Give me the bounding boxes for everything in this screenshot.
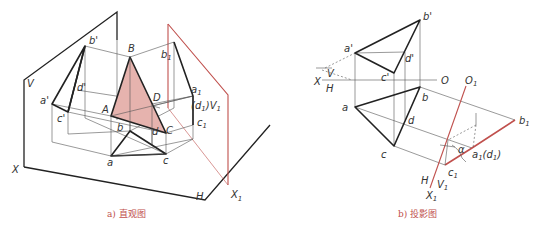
label-d1-prime-v1: (d1)V1 — [191, 100, 221, 113]
label-a-prime-b: a' — [344, 43, 353, 54]
caption-b: b) 投影图 — [398, 208, 437, 219]
label-c-b: c — [381, 149, 387, 160]
label-v1-b: V1 — [437, 179, 448, 192]
label-point-b: b — [117, 122, 123, 133]
label-point-d: d — [152, 126, 159, 137]
label-point-B: B — [128, 43, 135, 54]
v-plane-outline — [24, 12, 117, 167]
label-o1: O1 — [465, 75, 477, 88]
label-a-prime: a' — [40, 95, 49, 106]
label-b-prime-b: b' — [423, 11, 432, 22]
label-point-a: a — [107, 157, 113, 168]
label-v-b: V — [327, 68, 335, 79]
label-c1-prime: c1 — [197, 117, 207, 130]
label-c-prime: c' — [57, 113, 65, 124]
label-b-prime: b' — [89, 35, 98, 46]
label-x-axis: X — [11, 164, 20, 175]
label-b-b: b — [422, 92, 428, 103]
caption-a: a) 直观图 — [107, 208, 146, 219]
label-c1-prime-b: c1 — [448, 167, 458, 180]
label-v-plane: V — [27, 78, 35, 89]
label-b1-prime: b1 — [161, 49, 172, 62]
label-h-plane: H — [196, 191, 204, 202]
label-x1-b: X1 — [425, 190, 437, 203]
label-o: O — [441, 75, 449, 86]
label-d-prime-b: d' — [405, 53, 414, 64]
label-h-below: H — [421, 175, 429, 186]
label-alpha: α — [458, 144, 465, 155]
label-a-b: a — [342, 102, 348, 113]
figure-a-perspective: V X H X1 B A C D a b c d b' a' c' d' b1 … — [11, 12, 270, 219]
label-x-axis-b: X — [313, 76, 322, 87]
figure-b-projection: X V H O O1 b' a' c' d' a b c d b1 a1(d1)… — [313, 11, 530, 219]
diagram-canvas: V X H X1 B A C D a b c d b' a' c' d' b1 … — [0, 0, 538, 227]
label-a1-d1-b: a1(d1) — [472, 149, 501, 162]
label-point-D: D — [153, 92, 161, 103]
label-b1-prime-b: b1 — [519, 115, 530, 128]
label-point-c: c — [163, 155, 169, 166]
label-c-prime-b: c' — [381, 72, 389, 83]
label-x1-axis: X1 — [230, 189, 242, 203]
label-d-prime: d' — [77, 82, 86, 93]
label-h-b: H — [326, 83, 334, 94]
label-point-C: C — [166, 125, 173, 136]
label-point-A: A — [101, 104, 109, 115]
label-d-b: d — [408, 115, 415, 126]
v-projection-triangle-b — [355, 20, 420, 73]
